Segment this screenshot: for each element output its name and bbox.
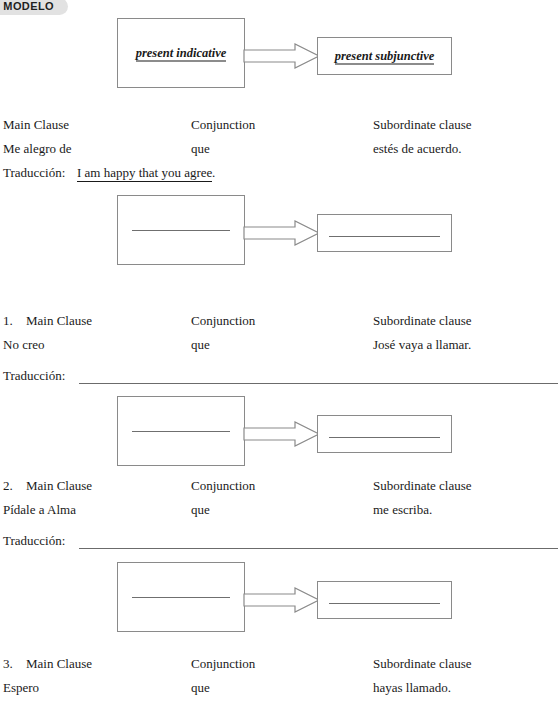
exercise-2-main-clause: Pídale a Alma — [3, 502, 76, 518]
header-subordinate-clause: Subordinate clause — [373, 478, 472, 494]
blank-fill-line — [329, 437, 441, 438]
example-clause-block: Main Clause Conjunction Subordinate clau… — [0, 117, 558, 165]
header-main-clause: Main Clause — [26, 313, 92, 329]
blank-fill-line — [132, 597, 230, 598]
header-main-clause: Main Clause — [26, 478, 92, 494]
exercise-3-main-clause: Espero — [3, 680, 39, 696]
exercise-3-clause-block: 3. Main Clause Conjunction Subordinate c… — [0, 656, 558, 702]
blank-diagram-3 — [0, 562, 558, 654]
exercise-2-clause-block: 2. Main Clause Conjunction Subordinate c… — [0, 478, 558, 526]
exercise-1-traduccion: Traducción: — [3, 368, 558, 390]
header-main-clause: Main Clause — [26, 656, 92, 672]
header-conjunction: Conjunction — [191, 313, 255, 329]
block-arrow-right-icon — [243, 219, 321, 247]
blank-fill-line — [132, 230, 230, 231]
example-main-clause: Me alegro de — [3, 141, 72, 157]
blank-subordinate-clause-box-2[interactable] — [317, 415, 452, 453]
modelo-badge: MODELO — [0, 0, 68, 15]
exercise-2-traduccion: Traducción: — [3, 533, 558, 555]
blank-main-clause-box-2[interactable] — [117, 396, 245, 466]
header-subordinate-clause: Subordinate clause — [373, 313, 472, 329]
traduccion-answer-period: . — [212, 165, 215, 181]
block-arrow-right-icon — [243, 586, 321, 614]
exercise-3-subordinate-clause: hayas llamado. — [373, 680, 451, 696]
traduccion-label: Traducción: — [3, 533, 65, 549]
traduccion-blank-input[interactable] — [79, 548, 558, 549]
example-conjunction: que — [191, 141, 210, 157]
header-subordinate-clause: Subordinate clause — [373, 117, 472, 133]
blank-main-clause-box-1[interactable] — [117, 195, 245, 265]
blank-subordinate-clause-box-1[interactable] — [317, 214, 452, 252]
traduccion-blank-input[interactable] — [79, 383, 558, 384]
exercise-3-header-row: 3. Main Clause Conjunction Subordinate c… — [0, 656, 558, 680]
exercise-3-sentence-row: Espero que hayas llamado. — [0, 680, 558, 702]
example-subordinate-clause: estés de acuerdo. — [373, 141, 461, 157]
header-main-clause: Main Clause — [3, 117, 69, 133]
exercise-2-header-row: 2. Main Clause Conjunction Subordinate c… — [0, 478, 558, 502]
blank-fill-line — [329, 236, 441, 237]
example-traduccion: Traducción: I am happy that you agree. — [3, 165, 558, 187]
model-present-subjunctive-label: present subjunctive — [318, 49, 451, 64]
example-header-row: Main Clause Conjunction Subordinate clau… — [0, 117, 558, 141]
exercise-3-number: 3. — [3, 656, 25, 672]
blank-diagram-2 — [0, 396, 558, 488]
blank-fill-line — [329, 603, 441, 604]
exercise-2-subordinate-clause: me escriba. — [373, 502, 432, 518]
exercise-1-conjunction: que — [191, 337, 210, 353]
model-present-indicative-label: present indicative — [118, 46, 244, 61]
traduccion-label: Traducción: — [3, 165, 65, 181]
exercise-1-sentence-row: No creo que José vaya a llamar. — [0, 337, 558, 361]
exercise-2-sentence-row: Pídale a Alma que me escriba. — [0, 502, 558, 526]
header-conjunction: Conjunction — [191, 656, 255, 672]
blank-fill-line — [132, 431, 230, 432]
traduccion-label: Traducción: — [3, 368, 65, 384]
model-present-indicative-box: present indicative — [117, 18, 245, 88]
traduccion-answer: I am happy that you agree — [77, 165, 212, 182]
block-arrow-right-icon — [243, 420, 321, 448]
header-subordinate-clause: Subordinate clause — [373, 656, 472, 672]
model-present-subjunctive-box: present subjunctive — [317, 37, 452, 75]
exercise-1-subordinate-clause: José vaya a llamar. — [373, 337, 471, 353]
exercise-3-conjunction: que — [191, 680, 210, 696]
header-conjunction: Conjunction — [191, 117, 255, 133]
blank-main-clause-box-3[interactable] — [117, 562, 245, 632]
exercise-1-main-clause: No creo — [3, 337, 45, 353]
header-conjunction: Conjunction — [191, 478, 255, 494]
exercise-1-header-row: 1. Main Clause Conjunction Subordinate c… — [0, 313, 558, 337]
block-arrow-right-icon — [243, 42, 321, 70]
exercise-2-number: 2. — [3, 478, 25, 494]
model-diagram: present indicative present subjunctive — [0, 18, 558, 110]
exercise-1-number: 1. — [3, 313, 25, 329]
blank-subordinate-clause-box-3[interactable] — [317, 581, 452, 619]
exercise-1-clause-block: 1. Main Clause Conjunction Subordinate c… — [0, 313, 558, 361]
blank-diagram-1 — [0, 195, 558, 287]
exercise-2-conjunction: que — [191, 502, 210, 518]
example-sentence-row: Me alegro de que estés de acuerdo. — [0, 141, 558, 165]
